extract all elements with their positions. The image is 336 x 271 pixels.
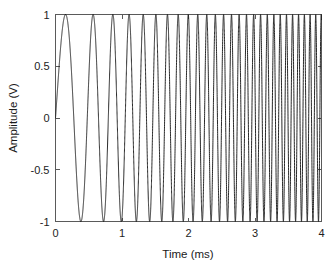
x-axis-title: Time (ms): [162, 248, 213, 260]
y-tick-label: 0: [43, 112, 49, 124]
x-tick-label: 0: [52, 227, 58, 239]
x-tick-label: 3: [252, 227, 258, 239]
y-tick-label: -1: [40, 216, 50, 228]
x-tick-label: 2: [185, 227, 191, 239]
figure-canvas: 01234 -1-0.500.51 Time (ms) Amplitude (V…: [0, 0, 336, 271]
y-tick-label: 0.5: [34, 60, 49, 72]
chart-plot: 01234 -1-0.500.51 Time (ms) Amplitude (V…: [0, 0, 336, 271]
x-tick-label: 4: [318, 227, 324, 239]
y-tick-label: -0.5: [31, 164, 50, 176]
x-tick-label: 1: [119, 227, 125, 239]
y-tick-label: 1: [43, 9, 49, 21]
y-axis-title: Amplitude (V): [7, 83, 19, 153]
